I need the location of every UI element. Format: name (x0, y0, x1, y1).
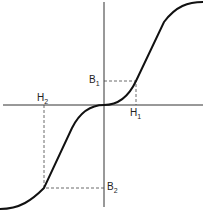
dashed-guide-h2-b2 (44, 105, 104, 188)
bh-diagram (0, 0, 203, 211)
label-b2: B2 (107, 182, 118, 194)
label-h1: H1 (130, 108, 141, 120)
label-h2: H2 (37, 93, 48, 105)
label-b1: B1 (89, 75, 100, 87)
